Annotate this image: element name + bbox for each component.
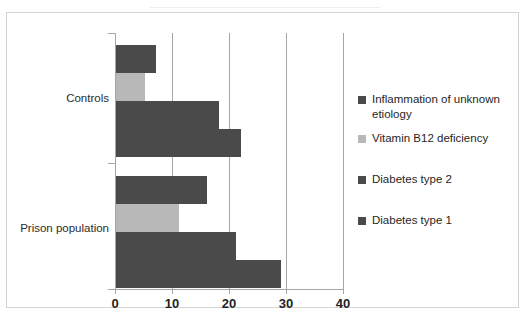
legend-label: Diabetes type 2 [372, 172, 452, 187]
legend-item[interactable]: Inflammation of unknown etiology [358, 92, 518, 121]
legend-item[interactable]: Vitamin B12 deficiency [358, 131, 518, 146]
bar [116, 204, 179, 232]
x-tick-mark [286, 289, 287, 294]
top-edge-artifact [150, 7, 380, 8]
legend-label: Diabetes type 1 [372, 213, 452, 228]
x-tick-label: 10 [165, 296, 179, 311]
bar [116, 232, 236, 260]
y-tick-mark [108, 163, 115, 164]
y-tick-mark [108, 289, 115, 290]
chart-legend: Inflammation of unknown etiologyVitamin … [358, 92, 518, 244]
bar [116, 176, 207, 204]
plot-area [115, 33, 343, 289]
category-label-prison-population: Prison population [20, 222, 109, 234]
x-tick-label: 30 [279, 296, 293, 311]
x-tick-mark [172, 289, 173, 294]
x-tick-mark [229, 289, 230, 294]
x-tick-mark [115, 289, 116, 294]
bar-chart: 010203040 ControlsPrison population Infl… [0, 0, 525, 318]
bar [116, 101, 219, 129]
y-tick-mark [108, 33, 115, 34]
bar [116, 73, 145, 101]
legend-swatch-icon [358, 176, 366, 184]
legend-item[interactable]: Diabetes type 2 [358, 172, 518, 187]
category-axis-labels: ControlsPrison population [0, 0, 109, 318]
x-tick-label: 0 [111, 296, 118, 311]
gridline [343, 33, 344, 289]
x-tick-mark [343, 289, 344, 294]
category-label-controls: Controls [66, 92, 109, 104]
legend-swatch-icon [358, 217, 366, 225]
legend-swatch-icon [358, 135, 366, 143]
bar [116, 45, 156, 73]
x-tick-label: 40 [336, 296, 350, 311]
bar [116, 260, 281, 288]
legend-swatch-icon [358, 96, 366, 104]
legend-label: Vitamin B12 deficiency [372, 131, 488, 146]
x-tick-label: 20 [222, 296, 236, 311]
legend-label: Inflammation of unknown etiology [372, 92, 518, 121]
gridline [286, 33, 287, 289]
legend-item[interactable]: Diabetes type 1 [358, 213, 518, 228]
bar [116, 129, 241, 157]
